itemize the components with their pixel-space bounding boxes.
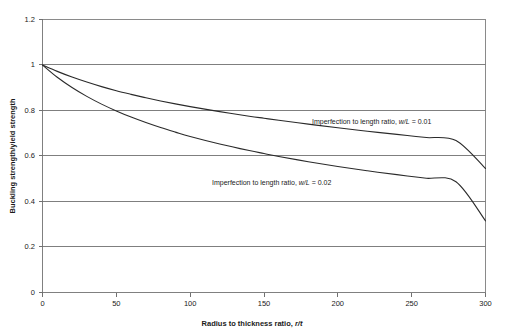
x-tick-label: 50 — [112, 299, 120, 308]
annotation-prefix: Imperfection to length ratio, — [212, 179, 299, 187]
series-annotation-wl-001: Imperfection to length ratio, w/L = 0.01 — [312, 118, 431, 126]
annotation-symbol: w/L — [399, 118, 410, 125]
axis-x — [43, 293, 486, 297]
x-axis-title: Radius to thickness ratio, r/t — [202, 319, 303, 328]
series-annotation-wl-002: Imperfection to length ratio, w/L = 0.02 — [212, 179, 331, 187]
annotation-symbol: w/L — [299, 179, 310, 186]
y-tick-label: 0 — [31, 288, 35, 297]
x-tick-label: 100 — [184, 299, 197, 308]
y-tick-label: 0.2 — [25, 242, 35, 251]
x-tick-labels: 0 50 100 150 200 250 300 — [40, 299, 491, 308]
annotation-suffix: = 0.01 — [410, 118, 432, 125]
y-tick-label: 0.6 — [25, 151, 35, 160]
x-tick-label: 150 — [258, 299, 271, 308]
chart-container: 0 0.2 0.4 0.6 0.8 1 1.2 0 50 100 150 200… — [0, 0, 505, 335]
annotation-prefix: Imperfection to length ratio, — [312, 118, 399, 126]
x-tick-label: 0 — [40, 299, 44, 308]
series-group — [43, 65, 486, 221]
x-tick-label: 200 — [332, 299, 345, 308]
axis-y — [39, 20, 43, 293]
y-tick-label: 0.8 — [25, 106, 35, 115]
buckling-strength-chart: 0 0.2 0.4 0.6 0.8 1 1.2 0 50 100 150 200… — [0, 0, 505, 335]
x-axis-title-prefix: Radius to thickness ratio, — [202, 319, 295, 328]
gridlines-horizontal — [43, 65, 486, 247]
x-axis-title-symbol: r/t — [295, 319, 303, 328]
x-tick-label: 300 — [479, 299, 492, 308]
y-tick-label: 0.4 — [25, 197, 35, 206]
y-axis-title: Buckling strength/yield strength — [8, 98, 17, 213]
x-tick-label: 250 — [405, 299, 418, 308]
y-tick-label: 1 — [31, 60, 35, 69]
annotation-suffix: = 0.02 — [310, 179, 332, 186]
y-tick-label: 1.2 — [25, 15, 35, 24]
y-tick-labels: 0 0.2 0.4 0.6 0.8 1 1.2 — [25, 15, 35, 297]
